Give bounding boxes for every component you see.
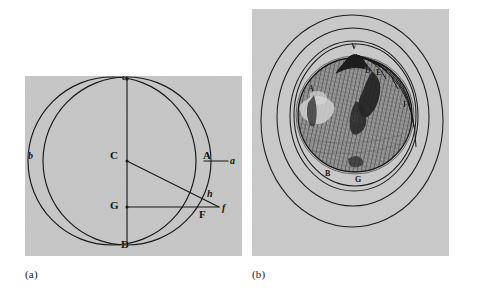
label-b-point-G: G <box>355 176 361 184</box>
label-point-b: b <box>28 151 33 161</box>
label-b-point-A: A <box>308 85 314 93</box>
label-point-F: F <box>199 209 206 220</box>
label-point-a: a <box>230 156 235 166</box>
panel-a-plate: c b C A a h G F f D <box>25 76 242 256</box>
label-b-point-V: V <box>351 43 357 51</box>
label-point-h: h <box>207 189 213 199</box>
label-b-point-E: E <box>376 69 381 77</box>
label-point-A: A <box>203 150 211 161</box>
label-b-point-D: D <box>365 67 371 75</box>
label-point-G: G <box>110 200 119 211</box>
label-point-f: f <box>222 203 225 213</box>
label-point-C: C <box>110 150 118 161</box>
panel-a-drawing <box>25 76 242 256</box>
panel-b-caption: (b) <box>252 268 265 280</box>
label-b-point-F: F <box>403 101 408 109</box>
label-point-D: D <box>121 239 129 250</box>
label-b-point-B: B <box>325 170 330 178</box>
label-point-c: c <box>122 76 126 82</box>
panel-a-caption: (a) <box>25 268 38 280</box>
label-b-point-C: C <box>352 115 358 123</box>
paper-grain <box>25 76 242 256</box>
panel-b-plate: V D E A F C B G <box>252 9 449 256</box>
figure-root: c b C A a h G F f D (a) <box>0 0 489 296</box>
